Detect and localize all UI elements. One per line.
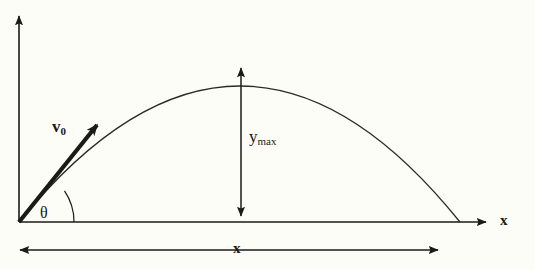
ymax-subscript: max bbox=[258, 135, 277, 147]
max-height-label: ymax bbox=[249, 128, 276, 147]
trajectory-curve bbox=[19, 86, 460, 222]
launch-angle-label: θ bbox=[40, 205, 48, 221]
horizontal-range-label: x bbox=[233, 241, 241, 256]
launch-angle-arc bbox=[65, 191, 75, 222]
ymax-symbol: y bbox=[249, 127, 258, 146]
initial-velocity-vector bbox=[19, 125, 97, 222]
velocity-subscript: 0 bbox=[61, 125, 67, 137]
velocity-symbol: v bbox=[52, 117, 61, 136]
x-axis-label: x bbox=[500, 213, 508, 228]
velocity-vector-label: v0 bbox=[52, 118, 66, 137]
projectile-motion-figure: v0 θ ymax x x bbox=[0, 0, 535, 270]
